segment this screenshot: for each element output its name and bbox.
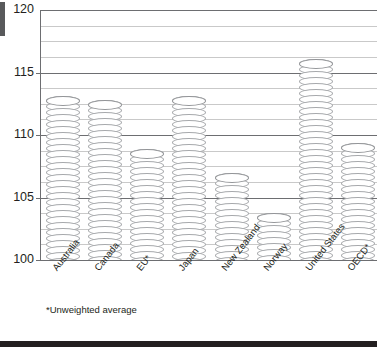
- bar-top-cap: [341, 143, 375, 153]
- gridline-major: [40, 10, 377, 11]
- y-tick-mark: [36, 135, 41, 136]
- bar-disc-stack: [341, 143, 375, 261]
- gridline-minor: [40, 57, 377, 58]
- y-tick-label: 115: [0, 65, 34, 79]
- bar-australia: [46, 96, 80, 260]
- y-tick-label: 120: [0, 2, 34, 16]
- y-tick-label: 110: [0, 127, 34, 141]
- bar-disc-stack: [88, 100, 122, 260]
- bar-disc-stack: [172, 96, 206, 260]
- gridline-minor: [40, 41, 377, 42]
- bar-eu: [130, 149, 164, 260]
- bar-top-cap: [130, 149, 164, 159]
- bar-top-cap: [215, 173, 249, 183]
- y-tick-mark: [36, 198, 41, 199]
- bar-disc-stack: [46, 96, 80, 260]
- y-tick-mark: [36, 73, 41, 74]
- y-tick-mark: [36, 260, 41, 261]
- bottom-rule: [0, 341, 377, 347]
- bar-disc-stack: [299, 59, 333, 260]
- bar-united-states: [299, 59, 333, 260]
- bar-oecd: [341, 143, 375, 261]
- bar-canada: [88, 100, 122, 260]
- y-tick-label: 105: [0, 190, 34, 204]
- bar-top-cap: [257, 213, 291, 223]
- bar-japan: [172, 96, 206, 260]
- x-axis-baseline: [40, 260, 377, 261]
- gridline-minor: [40, 26, 377, 27]
- chart-container: 120115110105100 AustraliaCanadaEU*JapanN…: [0, 0, 377, 354]
- bar-top-cap: [88, 100, 122, 110]
- bar-top-cap: [299, 59, 333, 69]
- y-tick-label: 100: [0, 252, 34, 266]
- bar-disc-stack: [130, 149, 164, 260]
- footnote: *Unweighted average: [46, 304, 137, 315]
